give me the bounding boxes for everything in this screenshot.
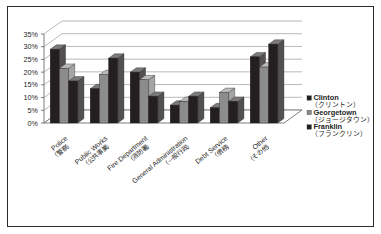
legend-swatch-georgetown bbox=[307, 110, 311, 114]
bar-front-face bbox=[109, 58, 118, 123]
legend-item-franklin[interactable]: Franklin（フランクリン） bbox=[307, 122, 367, 138]
bar-front-face bbox=[259, 67, 268, 123]
bar-front-face bbox=[170, 105, 179, 123]
bar-police-franklin bbox=[69, 77, 84, 123]
bar-front-face bbox=[69, 81, 78, 123]
bar-front-face bbox=[90, 89, 99, 123]
bar-front-face bbox=[179, 101, 188, 123]
bar-front-face bbox=[229, 101, 238, 123]
bar-chart: 0%5%10%15%20%25%30%35% Police（警察）Public … bbox=[0, 0, 381, 234]
bar-side-face bbox=[278, 40, 284, 123]
legend-label-jp: （フランクリン） bbox=[311, 130, 367, 138]
bar-front-face bbox=[269, 44, 278, 123]
category-axis-labels: Police（警察）Public Works（公共事業）Fire Departm… bbox=[46, 134, 275, 191]
legend-swatch-franklin bbox=[307, 125, 311, 129]
bar-fire-department-franklin bbox=[149, 92, 164, 123]
chart-legend: Clinton（クリントン）Georgetown（ジョージタウン）Frankli… bbox=[307, 93, 374, 138]
bar-front-face bbox=[50, 49, 59, 123]
bar-front-face bbox=[210, 108, 219, 123]
y-axis bbox=[41, 34, 44, 123]
bar-side-face bbox=[198, 92, 204, 123]
y-tick-label-25%: 25% bbox=[24, 55, 39, 64]
bar-debt-service-franklin bbox=[229, 97, 244, 123]
bar-side-face bbox=[158, 92, 164, 123]
y-tick-label-35%: 35% bbox=[24, 30, 39, 39]
bar-side-face bbox=[78, 77, 84, 123]
gridline-depth-35% bbox=[44, 21, 62, 34]
screenshot-frame: 0%5%10%15%20%25%30%35% Police（警察）Public … bbox=[0, 0, 381, 234]
bar-front-face bbox=[59, 68, 68, 123]
legend-swatch-clinton bbox=[307, 96, 311, 100]
bar-front-face bbox=[189, 96, 198, 123]
y-tick-label-0%: 0% bbox=[28, 119, 39, 128]
bar-front-face bbox=[149, 96, 158, 123]
y-tick-label-10%: 10% bbox=[24, 93, 39, 102]
y-tick-label-30%: 30% bbox=[24, 42, 39, 51]
bar-front-face bbox=[250, 57, 259, 123]
y-tick-label-15%: 15% bbox=[24, 80, 39, 89]
bar-side-face bbox=[118, 54, 124, 123]
category-label-debt-service: Debt Service（債務） bbox=[194, 134, 234, 171]
category-label-other: Other（その他） bbox=[241, 134, 274, 166]
y-tick-label-5%: 5% bbox=[28, 106, 39, 115]
y-tick-label-20%: 20% bbox=[24, 68, 39, 77]
y-axis-tick-labels: 0%5%10%15%20%25%30%35% bbox=[24, 30, 39, 128]
category-label-police: Police（警察） bbox=[46, 134, 74, 161]
bar-front-face bbox=[219, 92, 228, 123]
bar-front-face bbox=[130, 72, 139, 123]
bar-public-works-franklin bbox=[109, 54, 124, 123]
bar-front-face bbox=[139, 80, 148, 123]
bar-general-administration-franklin bbox=[189, 92, 204, 123]
bar-other-franklin bbox=[269, 40, 284, 123]
bar-front-face bbox=[99, 75, 108, 123]
